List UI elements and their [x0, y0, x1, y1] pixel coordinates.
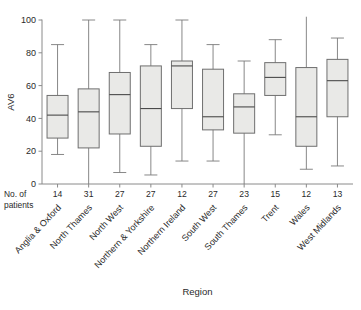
box-plot-group	[234, 61, 255, 184]
box-iqr	[296, 68, 317, 147]
box-plot-group	[327, 38, 348, 166]
patient-count-label: 15	[270, 189, 280, 199]
box-plot-group	[203, 45, 224, 161]
patient-count-label: 27	[146, 189, 156, 199]
x-axis-category-label: Northern & Yorkshire	[92, 203, 156, 271]
box-plot-group	[47, 45, 68, 155]
patient-count-label: 27	[115, 189, 125, 199]
box-plot-group	[109, 20, 130, 173]
box-plot-group	[296, 17, 317, 170]
box-iqr	[203, 69, 224, 130]
y-axis-tick-label: 100	[21, 15, 36, 25]
y-axis-tick-label: 80	[26, 48, 36, 58]
y-axis-tick-label: 0	[31, 179, 36, 189]
x-axis-title: Region	[182, 286, 212, 297]
patient-count-label: 31	[84, 189, 94, 199]
box-iqr	[47, 95, 68, 138]
y-axis-tick-label: 60	[26, 81, 36, 91]
box-iqr	[140, 66, 161, 146]
boxes-layer	[47, 17, 348, 184]
count-row-header-line2: patients	[4, 200, 33, 210]
box-plot-group	[78, 20, 99, 184]
box-iqr	[327, 59, 348, 116]
patient-count-label: 23	[239, 189, 249, 199]
box-plot-svg: 020406080100 AV6RegionNo. ofpatients14An…	[0, 0, 361, 310]
box-plot-figure: 020406080100 AV6RegionNo. ofpatients14An…	[0, 0, 361, 310]
x-axis-category-label: Wales	[288, 202, 312, 227]
box-iqr	[265, 63, 286, 96]
box-plot-group	[140, 45, 161, 175]
count-row-header-line1: No. of	[4, 189, 27, 199]
y-axis-tick-label: 20	[26, 146, 36, 156]
patient-count-label: 14	[53, 189, 63, 199]
patient-count-label: 12	[302, 189, 312, 199]
patient-count-label: 13	[333, 189, 343, 199]
y-axis-tick-label: 40	[26, 114, 36, 124]
y-axis-title: AV6	[5, 93, 16, 110]
box-iqr	[78, 89, 99, 148]
patient-count-label: 27	[208, 189, 218, 199]
box-plot-group	[171, 20, 192, 161]
x-axis-category-label: Trent	[259, 202, 281, 224]
box-iqr	[171, 61, 192, 109]
box-iqr	[234, 94, 255, 133]
box-iqr	[109, 72, 130, 134]
box-plot-group	[265, 40, 286, 135]
patient-count-label: 12	[177, 189, 187, 199]
